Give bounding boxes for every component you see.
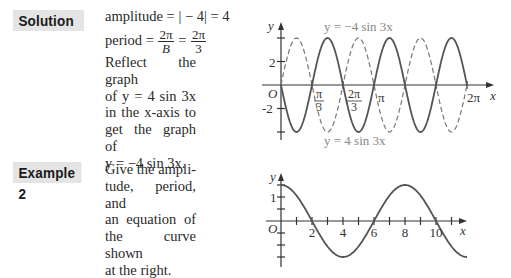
graph2-xtick-label: 2 [309,225,316,240]
graph2-origin-label: O [268,221,278,236]
graph2-xtick-label: 6 [371,225,378,240]
graph2-xtick-label: 4 [340,225,347,240]
graph2-xtick-label: 10 [430,225,443,240]
graph2-xtick-label: 8 [402,225,409,240]
graph2-y-arrow-icon [278,173,284,181]
graph2-axes [266,179,463,267]
graph2-ytick-1: 1 [270,190,277,205]
graph2-y-label: y [268,169,276,184]
graph2-x-label: x [459,223,466,238]
graph-example2-cosine: y x O 1 246810 [0,0,511,278]
